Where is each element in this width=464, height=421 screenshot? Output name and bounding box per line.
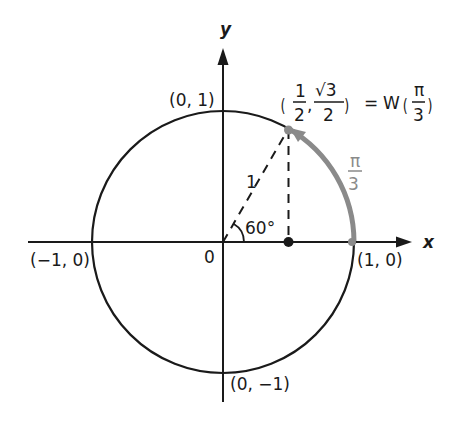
- close-paren: ): [344, 96, 349, 116]
- open-paren: (: [281, 96, 286, 116]
- label-bottom-point: (0, −1): [230, 374, 290, 394]
- angle-label: 60°: [245, 218, 275, 238]
- x-denominator: 2: [294, 105, 305, 125]
- y-numerator: √3: [315, 80, 337, 100]
- label-left-point: (−1, 0): [30, 250, 90, 270]
- point-label: ( 1 2 , √3 2 ) = W ( π 3 ): [281, 80, 433, 125]
- arc-label-numerator: π: [350, 151, 360, 171]
- x-axis-arrow-icon: [396, 237, 412, 248]
- point-1-0: [348, 238, 356, 246]
- circle-point-60deg: [284, 126, 293, 135]
- x-axis-label: x: [422, 232, 435, 252]
- label-top-point: (0, 1): [169, 90, 215, 110]
- arc-pi-over-3: [289, 129, 355, 242]
- arg-close-paren: ): [428, 96, 433, 116]
- function-w: W: [383, 93, 400, 113]
- origin-label: 0: [204, 247, 215, 267]
- angle-arc: [234, 224, 245, 242]
- y-denominator: 2: [323, 105, 334, 125]
- y-axis-arrow-icon: [218, 48, 229, 65]
- radius-label: 1: [246, 172, 257, 192]
- foot-point: [284, 237, 294, 247]
- equals-sign: =: [364, 93, 378, 113]
- arg-denominator: 3: [413, 105, 424, 125]
- x-numerator: 1: [295, 81, 306, 101]
- unit-circle-diagram: y x 0 (0, 1) (0, −1) (−1, 0) (1, 0) 1 60…: [0, 0, 464, 421]
- label-right-point: (1, 0): [357, 250, 403, 270]
- arc-label-denominator: 3: [348, 174, 359, 194]
- y-axis-label: y: [220, 19, 232, 39]
- comma: ,: [307, 95, 312, 115]
- arg-numerator: π: [414, 80, 424, 100]
- arg-open-paren: (: [403, 96, 408, 116]
